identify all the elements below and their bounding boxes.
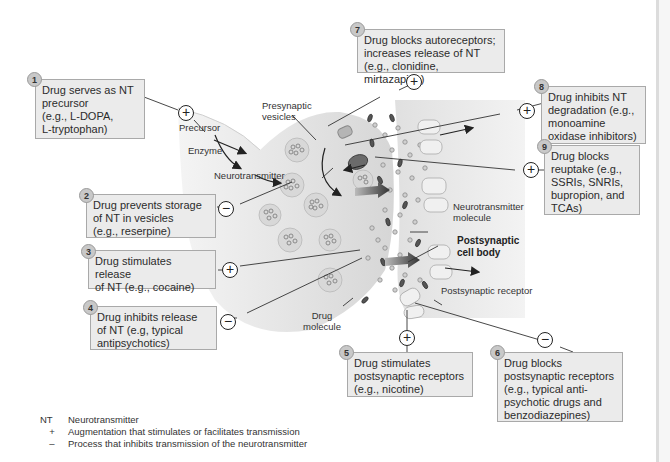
annotation-line: (e.g., reserpine) xyxy=(93,225,210,238)
step-badge-3: 3 xyxy=(81,244,96,259)
plus-icon: + xyxy=(222,262,238,278)
annotation-line: degradation (e.g., xyxy=(548,104,640,117)
annotation-box-1: Drug serves as NT precursor (e.g., L-DOP… xyxy=(35,79,145,139)
label-line: Drug xyxy=(303,310,341,321)
legend-text: Augmentation that stimulates or facilita… xyxy=(68,426,300,438)
legend: NT Neurotransmitter + Augmentation that … xyxy=(40,414,307,450)
step-badge-2: 2 xyxy=(79,188,94,203)
label-enzyme: Enzyme xyxy=(188,145,222,156)
legend-row: NT Neurotransmitter xyxy=(40,414,307,426)
annotation-line: postsynaptic receptors xyxy=(354,370,467,383)
annotation-box-2: Drug prevents storage of NT in vesicles … xyxy=(86,194,216,238)
step-badge-8: 8 xyxy=(534,79,549,94)
page-edge-margin xyxy=(659,0,670,462)
label-line: molecule xyxy=(453,212,524,223)
annotation-line: (e.g., typical anti- xyxy=(504,383,617,396)
label-drug-molecule: Drug molecule xyxy=(303,310,341,332)
annotation-line: reuptake (e.g., xyxy=(551,163,634,176)
label-line: molecule xyxy=(303,321,341,332)
legend-key: – xyxy=(40,438,68,450)
plus-icon: + xyxy=(406,74,422,90)
step-badge-1: 1 xyxy=(27,72,42,87)
annotation-line: bupropion, and xyxy=(551,189,634,202)
label-postsynaptic-receptor: Postsynaptic receptor xyxy=(441,285,532,296)
annotation-line: monoamine xyxy=(548,117,640,130)
legend-key: + xyxy=(40,426,68,438)
plus-icon: + xyxy=(519,103,535,119)
annotation-line: of NT (e.g., cocaine) xyxy=(95,281,210,294)
label-line: Neurotransmitter xyxy=(453,201,524,212)
label-postsynaptic-cell-body: Postsynaptic cell body xyxy=(457,235,519,259)
annotation-box-8: Drug inhibits NT degradation (e.g., mono… xyxy=(541,86,646,144)
legend-row: – Process that inhibits transmission of … xyxy=(40,438,307,450)
annotation-line: Drug serves as NT xyxy=(42,84,139,97)
label-line: cell body xyxy=(457,247,519,259)
label-presynaptic-vesicles: Presynaptic vesicles xyxy=(262,100,312,122)
annotation-line: psychotic drugs and xyxy=(504,396,617,409)
annotation-line: Drug blocks xyxy=(504,357,617,370)
annotation-line: of NT in vesicles xyxy=(93,212,210,225)
legend-text: Process that inhibits transmission of th… xyxy=(68,438,307,450)
step-badge-7: 7 xyxy=(350,22,365,37)
legend-text: Neurotransmitter xyxy=(68,414,139,426)
annotation-box-7: Drug blocks autoreceptors; increases rel… xyxy=(357,29,505,73)
annotation-line: Drug stimulates xyxy=(354,357,467,370)
annotation-line: (e.g., L-DOPA, xyxy=(42,110,139,123)
annotation-line: of NT (e.g, typical xyxy=(97,324,211,337)
label-precursor: Precursor xyxy=(179,122,220,133)
annotation-box-5: Drug stimulates postsynaptic receptors (… xyxy=(347,352,473,397)
step-badge-9: 9 xyxy=(537,139,552,154)
plus-icon: + xyxy=(399,330,415,346)
annotation-line: precursor xyxy=(42,97,139,110)
annotation-box-9: Drug blocks reuptake (e.g., SSRIs, SNRIs… xyxy=(544,145,640,215)
legend-row: + Augmentation that stimulates or facili… xyxy=(40,426,307,438)
annotation-line: antipsychotics) xyxy=(97,337,211,350)
annotation-line: postsynaptic receptors xyxy=(504,370,617,383)
label-line: Presynaptic xyxy=(262,100,312,111)
annotation-box-6: Drug blocks postsynaptic receptors (e.g.… xyxy=(497,352,623,422)
annotation-box-4: Drug inhibits release of NT (e.g, typica… xyxy=(90,306,217,350)
annotation-line: TCAs) xyxy=(551,202,634,215)
annotation-line: Drug prevents storage xyxy=(93,199,210,212)
label-neurotransmitter: Neurotransmitter xyxy=(214,170,285,181)
step-badge-6: 6 xyxy=(490,345,505,360)
annotation-line: Drug inhibits NT xyxy=(548,91,640,104)
label-nt-molecule: Neurotransmitter molecule xyxy=(453,201,524,223)
annotation-line: (e.g., nicotine) xyxy=(354,383,467,396)
step-badge-4: 4 xyxy=(83,300,98,315)
minus-icon: − xyxy=(537,332,553,348)
minus-icon: − xyxy=(218,201,234,217)
annotation-line: oxidase inhibitors) xyxy=(548,130,640,143)
annotation-line: L-tryptophan) xyxy=(42,123,139,136)
plus-icon: + xyxy=(523,162,539,178)
annotation-line: Drug stimulates release xyxy=(95,255,210,281)
annotation-line: Drug blocks autoreceptors; xyxy=(364,34,499,47)
annotation-line: benzodiazepines) xyxy=(504,409,617,422)
step-badge-5: 5 xyxy=(339,345,354,360)
annotation-line: Drug blocks xyxy=(551,150,634,163)
label-line: Postsynaptic xyxy=(457,235,519,247)
annotation-line: SSRIs, SNRIs, xyxy=(551,176,634,189)
annotation-line: (e.g., clonidine, mirtazapine) xyxy=(364,60,499,86)
annotation-line: Drug inhibits release xyxy=(97,311,211,324)
legend-key: NT xyxy=(40,414,68,426)
annotation-box-3: Drug stimulates release of NT (e.g., coc… xyxy=(88,250,216,289)
minus-icon: − xyxy=(220,314,236,330)
annotation-line: increases release of NT xyxy=(364,47,499,60)
label-line: vesicles xyxy=(262,111,312,122)
plus-icon: + xyxy=(178,105,194,121)
